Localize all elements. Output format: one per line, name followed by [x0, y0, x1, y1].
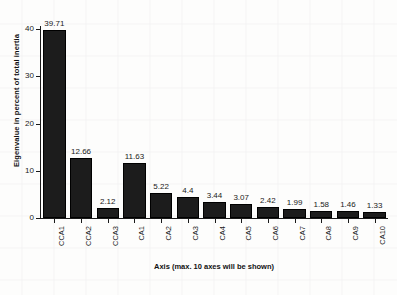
bar-slot[interactable]: 2.12	[94, 22, 121, 218]
x-tick-label: CA9	[351, 226, 360, 241]
bar-value-label: 5.22	[153, 182, 169, 191]
bar-slot[interactable]: 3.44	[201, 22, 228, 218]
x-tick-mark	[108, 219, 109, 223]
x-tick-label: CA5	[244, 226, 253, 241]
bar-value-label: 4.4	[182, 186, 193, 195]
x-tick-mark	[54, 219, 55, 223]
bar-slot[interactable]: 4.4	[174, 22, 201, 218]
x-tick-label: CA10	[378, 226, 387, 245]
bar[interactable]	[123, 163, 145, 218]
bar-slot[interactable]: 1.33	[361, 22, 388, 218]
x-tick-label: CA8	[324, 226, 333, 241]
bar-value-label: 1.33	[367, 201, 383, 210]
bar-value-label: 3.07	[233, 193, 249, 202]
y-tick-mark	[36, 171, 40, 172]
x-tick-label: CCA2	[84, 226, 93, 246]
x-tick-mark	[348, 219, 349, 223]
x-tick-mark	[295, 219, 296, 223]
bar[interactable]	[203, 202, 225, 218]
x-tick-mark	[188, 219, 189, 223]
x-tick-mark	[134, 219, 135, 223]
bar[interactable]	[257, 207, 279, 218]
bar[interactable]	[70, 158, 92, 218]
bar[interactable]	[230, 204, 252, 218]
bar-value-label: 1.46	[340, 200, 356, 209]
x-tick-label: CCA1	[57, 226, 66, 246]
y-tick-label: 40	[14, 24, 34, 33]
bar[interactable]	[310, 211, 332, 218]
bar-value-label: 2.42	[260, 196, 276, 205]
y-axis-title: Eigenvalue in percent of total inertia	[12, 11, 21, 191]
bar-value-label: 11.63	[125, 152, 144, 161]
x-tick-label: CA2	[164, 226, 173, 241]
y-tick-label: 30	[14, 71, 34, 80]
bar[interactable]	[97, 208, 119, 218]
y-tick-mark	[36, 76, 40, 77]
y-tick-mark	[36, 124, 40, 125]
bar-slot[interactable]: 1.46	[335, 22, 362, 218]
x-tick-label: CA1	[137, 226, 146, 241]
bar[interactable]	[283, 209, 305, 218]
bar-value-label: 3.44	[207, 191, 223, 200]
bar-slot[interactable]: 5.22	[148, 22, 175, 218]
bar-value-label: 1.99	[287, 198, 303, 207]
bar-series: 39.7112.662.1211.635.224.43.443.072.421.…	[41, 22, 388, 218]
bar-value-label: 12.66	[71, 147, 91, 156]
bar[interactable]	[177, 197, 199, 218]
x-axis-title: Axis (max. 10 axes will be shown)	[40, 262, 388, 271]
scree-plot-figure: Eigenvalue in percent of total inertia 0…	[0, 0, 397, 295]
bar-slot[interactable]: 39.71	[41, 22, 68, 218]
bar-value-label: 39.71	[44, 19, 64, 28]
bar-slot[interactable]: 1.58	[308, 22, 335, 218]
y-tick-label: 20	[14, 119, 34, 128]
x-tick-mark	[215, 219, 216, 223]
x-tick-mark	[375, 219, 376, 223]
x-tick-label: CCA3	[111, 226, 120, 246]
y-tick-label: 10	[14, 166, 34, 175]
bar-slot[interactable]: 3.07	[228, 22, 255, 218]
y-tick-mark	[36, 29, 40, 30]
bar-value-label: 2.12	[100, 197, 116, 206]
x-tick-mark	[321, 219, 322, 223]
bar[interactable]	[43, 30, 65, 218]
x-tick-mark	[81, 219, 82, 223]
x-tick-mark	[161, 219, 162, 223]
bar[interactable]	[337, 211, 359, 218]
bar-slot[interactable]: 1.99	[281, 22, 308, 218]
x-tick-label: CA7	[298, 226, 307, 241]
y-tick-label: 0	[14, 213, 34, 222]
bar-slot[interactable]: 2.42	[255, 22, 282, 218]
bar-value-label: 1.58	[313, 200, 329, 209]
bar[interactable]	[150, 193, 172, 218]
x-tick-label: CA6	[271, 226, 280, 241]
bar-slot[interactable]: 11.63	[121, 22, 148, 218]
x-tick-label: CA3	[191, 226, 200, 241]
x-tick-mark	[241, 219, 242, 223]
x-tick-label: CA4	[218, 226, 227, 241]
bar-slot[interactable]: 12.66	[68, 22, 95, 218]
x-tick-mark	[268, 219, 269, 223]
